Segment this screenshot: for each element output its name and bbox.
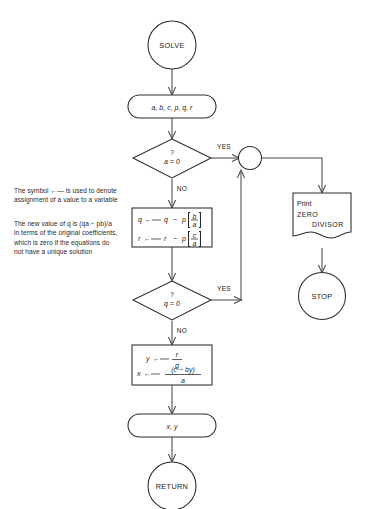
process-2-row2-denominator: a: [181, 377, 185, 384]
edges: [168, 69, 325, 462]
connector-circle-shape: [239, 147, 262, 170]
process-1-row1-rhs1: q: [164, 216, 168, 224]
node-process-2[interactable]: y ← r q x ← (c − by) a: [132, 345, 212, 385]
edge-yes-q: [211, 172, 241, 300]
print-line-2: ZERO: [297, 211, 318, 218]
return-label: RETURN: [156, 482, 189, 491]
node-output[interactable]: x, y: [128, 414, 216, 437]
process-1-row1-numerator: b: [193, 213, 197, 220]
decision-q-question-mark: ?: [170, 291, 174, 298]
node-decision-q[interactable]: ? q = 0: [133, 281, 211, 320]
process-2-rect-shape: [132, 345, 212, 385]
edge-connector-to-print: [261, 158, 322, 192]
edge-label-no-a: NO: [177, 185, 188, 192]
process-2-row2-lhs: x: [136, 370, 141, 377]
process-1-row2-rhs2: p: [181, 235, 186, 243]
node-start[interactable]: SOLVE: [148, 21, 196, 69]
node-decision-a[interactable]: ? a = 0: [133, 139, 211, 178]
node-connector[interactable]: [239, 147, 262, 170]
print-line-3: DIVISOR: [312, 221, 344, 228]
process-1-row1-op: −: [173, 216, 177, 223]
process-1-row2-denominator: a: [193, 240, 197, 247]
node-process-1[interactable]: q ← q − p b a r ← r − p c a: [132, 208, 212, 247]
edge-label-yes-q: YES: [217, 285, 231, 292]
decision-a-label: a = 0: [164, 158, 180, 165]
process-1-row2-op: −: [173, 235, 177, 242]
edge-label-no-q: NO: [177, 327, 188, 334]
start-label: SOLVE: [159, 41, 185, 50]
process-1-row1-lhs: q: [138, 216, 142, 224]
process-1-row1-denominator: a: [193, 221, 197, 228]
process-1-row2-arrow: ←: [144, 235, 151, 242]
print-line-1: Print: [297, 200, 311, 207]
node-print[interactable]: Print ZERO DIVISOR: [293, 193, 351, 238]
edge-label-yes-a: YES: [217, 143, 231, 150]
process-2-row2-numerator: (c − by): [171, 366, 195, 374]
process-1-row2-numerator: c: [193, 232, 197, 239]
decision-a-question-mark: ?: [170, 149, 174, 156]
node-stop[interactable]: STOP: [299, 273, 346, 320]
process-1-row1-rhs2: p: [181, 216, 186, 224]
input-label: a, b, c, p, q, r: [152, 104, 194, 112]
process-1-row1-arrow: ←: [145, 216, 152, 223]
flowchart-canvas: SOLVE a, b, c, p, q, r ? a = 0 YES NO Pr…: [0, 0, 366, 509]
stop-label: STOP: [311, 292, 332, 301]
process-2-row1-lhs: y: [145, 355, 150, 363]
node-return[interactable]: RETURN: [148, 462, 196, 509]
process-2-row1-arrow: ←: [153, 355, 160, 362]
decision-q-label: q = 0: [164, 300, 180, 308]
node-input[interactable]: a, b, c, p, q, r: [128, 95, 216, 118]
output-label: x, y: [166, 423, 178, 431]
process-2-row2-arrow: ←: [144, 370, 151, 377]
